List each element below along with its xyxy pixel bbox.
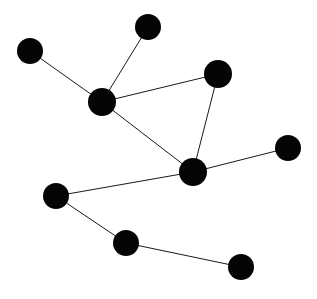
edge-layer [30, 27, 288, 267]
graph-node[interactable] [228, 254, 254, 280]
graph-edge [102, 102, 193, 172]
graph-node[interactable] [113, 230, 139, 256]
graph-edge [102, 74, 218, 102]
graph-node[interactable] [135, 14, 161, 40]
graph-node[interactable] [17, 38, 43, 64]
graph-node[interactable] [43, 183, 69, 209]
graph-edge [56, 172, 193, 196]
node-layer [17, 14, 301, 280]
graph-node[interactable] [179, 158, 207, 186]
graph-node[interactable] [88, 88, 116, 116]
graph-node[interactable] [275, 135, 301, 161]
graph-edge [193, 148, 288, 172]
network-graph-canvas [0, 0, 317, 299]
graph-edge [193, 74, 218, 172]
graph-edge [126, 243, 241, 267]
network-graph-svg [0, 0, 317, 299]
graph-node[interactable] [204, 60, 232, 88]
